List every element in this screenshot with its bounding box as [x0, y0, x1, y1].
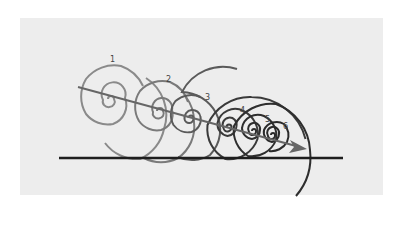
label-1: 1 — [110, 55, 115, 64]
label-6: 6 — [283, 122, 288, 131]
spiral-3 — [171, 67, 237, 160]
label-4: 4 — [240, 106, 245, 115]
label-3: 3 — [205, 93, 210, 102]
spiral-diagram: 1 2 3 4 5 6 — [0, 0, 398, 225]
arrow-head-icon — [289, 140, 307, 153]
label-2: 2 — [166, 75, 171, 84]
label-5: 5 — [265, 115, 270, 124]
